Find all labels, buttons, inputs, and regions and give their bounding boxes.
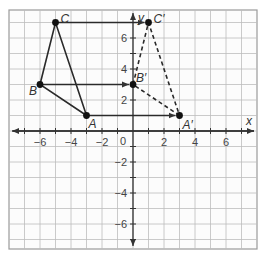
vertex-point xyxy=(145,19,152,26)
y-tick-label: 4 xyxy=(121,63,127,75)
x-tick-label: −6 xyxy=(34,136,47,148)
x-tick-label: 6 xyxy=(223,136,229,148)
x-tick-label: 2 xyxy=(161,136,167,148)
x-tick-label: 4 xyxy=(192,136,198,148)
y-tick-label: −6 xyxy=(114,218,127,230)
origin-label: 0 xyxy=(120,135,126,147)
vertex-point xyxy=(52,19,59,26)
vertex-point xyxy=(37,81,44,88)
y-tick-label: −2 xyxy=(114,156,127,168)
y-tick-label: 2 xyxy=(121,94,127,106)
y-tick-label: 6 xyxy=(121,32,127,44)
vertex-label: B′ xyxy=(136,71,147,85)
vertex-label: A′ xyxy=(182,118,194,132)
x-tick-label: −2 xyxy=(96,136,109,148)
vertex-label: C′ xyxy=(154,12,166,26)
coordinate-grid: −6−4−2246642−2−4−60xy ABC A′B′C′ xyxy=(0,0,266,261)
vertex-label: B xyxy=(29,84,37,98)
vertex-label: C xyxy=(61,12,70,26)
y-tick-label: −4 xyxy=(114,187,127,199)
x-tick-label: −4 xyxy=(65,136,78,148)
x-axis-label: x xyxy=(245,114,253,128)
vertex-label: A xyxy=(88,117,97,131)
